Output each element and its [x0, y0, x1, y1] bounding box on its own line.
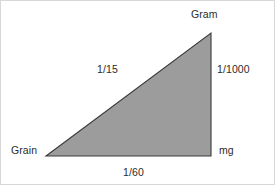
edge-label-base-1-60: 1/60: [123, 166, 144, 178]
triangle-polygon: [46, 33, 211, 156]
vertex-label-gram: Gram: [191, 8, 218, 20]
vertex-label-grain: Grain: [11, 144, 37, 156]
edge-label-hypotenuse-1-15: 1/15: [97, 63, 118, 75]
conversion-triangle-figure: Gram 1/1000 1/15 Grain mg 1/60: [0, 0, 275, 185]
edge-label-right-1-1000: 1/1000: [217, 63, 250, 75]
vertex-label-mg: mg: [219, 144, 234, 156]
triangle-shape: [1, 1, 275, 185]
